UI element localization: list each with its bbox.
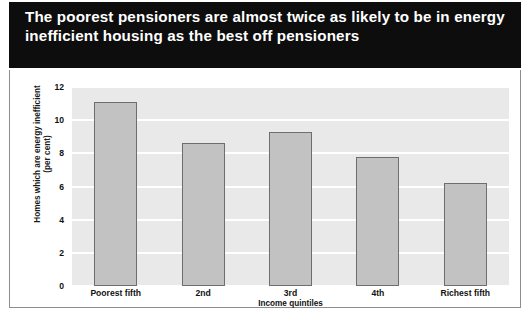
bar-chart-figure: Homes which are energy inefficient (per … bbox=[10, 70, 520, 307]
y-axis-tick-label: 0 bbox=[59, 282, 64, 291]
x-axis-tick-label: 2nd bbox=[155, 288, 251, 298]
bar bbox=[356, 157, 399, 286]
y-axis-tick-label: 4 bbox=[59, 215, 64, 224]
x-axis-tick-label: 3rd bbox=[243, 288, 339, 298]
y-axis-tick-label: 10 bbox=[54, 116, 64, 125]
y-axis-tick-mark bbox=[66, 218, 71, 221]
page-title: The poorest pensioners are almost twice … bbox=[25, 8, 505, 45]
y-axis-tick-mark bbox=[66, 251, 71, 254]
y-axis-title: Homes which are energy inefficient (per … bbox=[33, 69, 53, 239]
y-axis-title-line-2: (per cent) bbox=[43, 69, 53, 239]
y-axis-tick-mark bbox=[66, 152, 71, 155]
y-axis-tick-mark bbox=[66, 185, 71, 188]
bar bbox=[444, 183, 487, 286]
x-axis-tick-label: 4th bbox=[330, 288, 426, 298]
y-axis-tick-label: 8 bbox=[59, 149, 64, 158]
plot-area: 024681012 bbox=[72, 87, 509, 286]
y-axis-tick-mark bbox=[66, 119, 71, 122]
bar bbox=[182, 143, 225, 286]
x-axis-title: Income quintiles bbox=[72, 299, 509, 308]
y-axis-tick-mark bbox=[66, 86, 71, 89]
bar bbox=[269, 132, 312, 286]
bar bbox=[94, 102, 137, 286]
y-axis-tick-label: 2 bbox=[59, 249, 64, 258]
y-axis-tick-label: 6 bbox=[59, 182, 64, 191]
y-axis-tick-label: 12 bbox=[54, 83, 64, 92]
y-axis-title-line-1: Homes which are energy inefficient bbox=[33, 69, 43, 239]
chart-frame: Homes which are energy inefficient (per … bbox=[9, 70, 521, 308]
x-axis-tick-label: Richest fifth bbox=[417, 288, 513, 298]
bar-series bbox=[72, 87, 509, 286]
x-axis-tick-label: Poorest fifth bbox=[68, 288, 164, 298]
title-band: The poorest pensioners are almost twice … bbox=[9, 2, 521, 68]
